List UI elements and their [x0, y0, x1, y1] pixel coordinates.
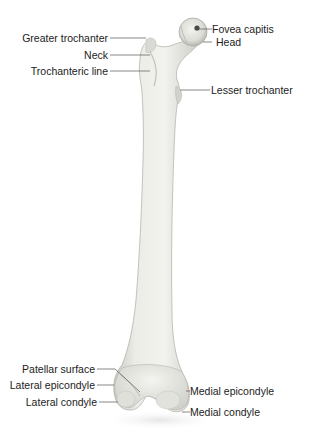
- label-lateral-epicondyle: Lateral epicondyle: [10, 379, 95, 391]
- femoral-head-shape: [179, 18, 207, 46]
- label-trochanteric-line: Trochanteric line: [31, 65, 108, 77]
- label-head: Head: [216, 36, 241, 48]
- medial-condyle-shape: [156, 391, 180, 409]
- label-lesser-trochanter: Lesser trochanter: [211, 84, 293, 96]
- femur-diagram: Greater trochanter Neck Trochanteric lin…: [0, 0, 320, 443]
- label-lateral-condyle: Lateral condyle: [26, 396, 97, 408]
- label-medial-condyle: Medial condyle: [190, 406, 260, 418]
- label-medial-epicondyle: Medial epicondyle: [190, 385, 274, 397]
- label-fovea-capitis: Fovea capitis: [212, 23, 274, 35]
- label-greater-trochanter: Greater trochanter: [22, 32, 108, 44]
- fovea-capitis-shape: [194, 25, 199, 30]
- lateral-condyle-shape: [117, 391, 135, 407]
- label-patellar-surface: Patellar surface: [22, 363, 95, 375]
- label-neck: Neck: [84, 49, 108, 61]
- femur-body: [114, 41, 198, 412]
